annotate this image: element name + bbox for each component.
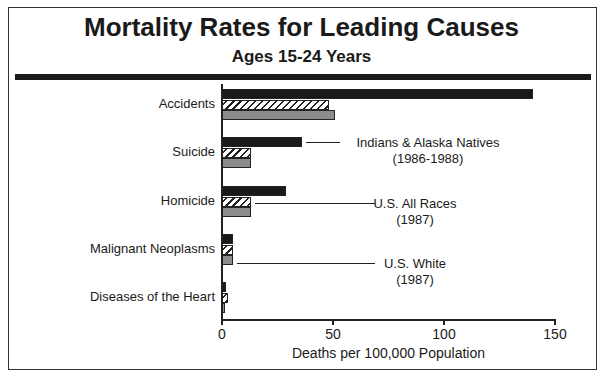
bar — [222, 110, 335, 120]
chart-subtitle: Ages 15-24 Years — [0, 47, 603, 67]
bar — [222, 245, 233, 255]
chart-title: Mortality Rates for Leading Causes — [0, 12, 603, 43]
legend-label: U.S. All Races(1987) — [315, 196, 515, 228]
bar — [222, 158, 251, 168]
bar — [222, 100, 329, 110]
category-label: Accidents — [159, 96, 215, 111]
bar — [222, 255, 233, 265]
bar — [222, 234, 233, 244]
legend-series-years: (1986-1988) — [328, 151, 528, 167]
x-tick-label: 150 — [535, 326, 575, 342]
x-tick-label: 100 — [424, 326, 464, 342]
legend-series-years: (1987) — [315, 272, 515, 288]
legend-label: U.S. White(1987) — [315, 256, 515, 288]
category-label: Diseases of the Heart — [90, 289, 215, 304]
x-tick — [332, 319, 334, 325]
legend-series-name: Indians & Alaska Natives — [328, 135, 528, 151]
bar — [222, 303, 225, 313]
legend-series-years: (1987) — [315, 212, 515, 228]
bar — [222, 186, 286, 196]
title-rule — [15, 74, 591, 80]
legend-series-name: U.S. All Races — [315, 196, 515, 212]
bar — [222, 148, 251, 158]
legend-series-name: U.S. White — [315, 256, 515, 272]
x-tick-label: 50 — [313, 326, 353, 342]
x-axis — [221, 319, 556, 321]
legend-label: Indians & Alaska Natives(1986-1988) — [328, 135, 528, 167]
x-tick — [221, 319, 223, 325]
bar — [222, 89, 533, 99]
category-label: Suicide — [172, 144, 215, 159]
x-tick — [443, 319, 445, 325]
x-tick-label: 0 — [202, 326, 242, 342]
bar — [222, 293, 228, 303]
bar — [222, 197, 251, 207]
bar — [222, 282, 226, 292]
bar — [222, 137, 302, 147]
bar — [222, 207, 251, 217]
x-axis-label: Deaths per 100,000 Population — [221, 345, 556, 361]
category-label: Malignant Neoplasms — [90, 241, 215, 256]
x-tick — [554, 319, 556, 325]
category-label: Homicide — [161, 193, 215, 208]
